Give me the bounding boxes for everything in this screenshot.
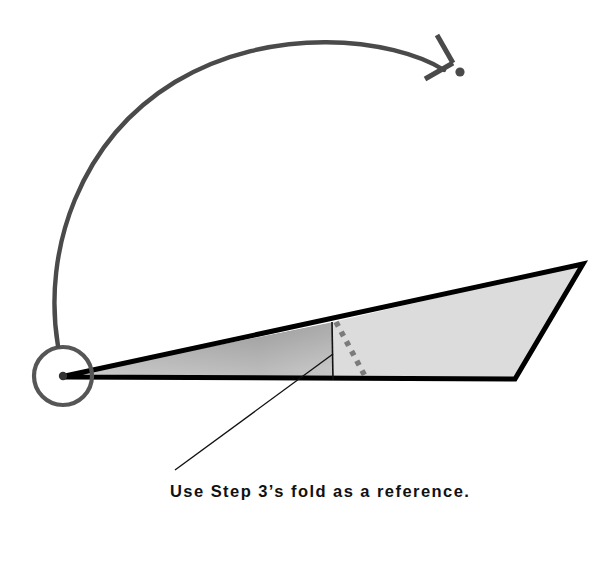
arrow-target-dot — [455, 67, 464, 76]
arrowhead-stroke-upper — [437, 35, 453, 63]
paper-shaded-sliver-overlay — [65, 322, 333, 380]
origami-diagram-canvas: Use Step 3’s fold as a reference. — [0, 0, 615, 564]
origami-diagram-svg: Use Step 3’s fold as a reference. — [0, 0, 615, 564]
crease-solid-line — [332, 322, 333, 380]
caption-label: Use Step 3’s fold as a reference. — [170, 482, 470, 500]
fold-rotation-arrow-curve — [54, 42, 444, 346]
paper-shaded-sliver-group — [65, 322, 333, 380]
rotation-pivot-dot — [59, 372, 67, 380]
paper-front-panel — [333, 264, 583, 380]
